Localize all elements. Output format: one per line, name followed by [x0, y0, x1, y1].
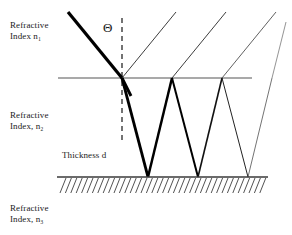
label-refractive-index-1: Refractive Index n₁	[10, 20, 48, 42]
internal-ray-up-1	[148, 78, 172, 177]
incident-ray	[68, 12, 122, 78]
faint-exit-ray	[272, 22, 286, 78]
reflected-ray-1	[122, 12, 176, 78]
reflected-ray-2	[172, 12, 226, 78]
figure-canvas: Refractive Index n₁ Refractive Index, n₂…	[0, 0, 292, 235]
label-refractive-index-3: Refractive Index, n₃	[10, 203, 48, 225]
internal-ray-down-3	[222, 78, 248, 177]
internal-ray-down-2	[172, 78, 198, 177]
hatching-group	[60, 178, 266, 193]
internal-ray-up-3	[248, 78, 272, 177]
reflected-ray-3	[222, 12, 276, 78]
label-incidence-angle-theta: Θ	[103, 21, 113, 35]
label-thickness: Thickness d	[62, 150, 106, 161]
label-refractive-index-2: Refractive Index, n₂	[10, 110, 48, 132]
internal-ray-down-1	[122, 78, 148, 177]
internal-ray-up-2	[198, 78, 222, 177]
